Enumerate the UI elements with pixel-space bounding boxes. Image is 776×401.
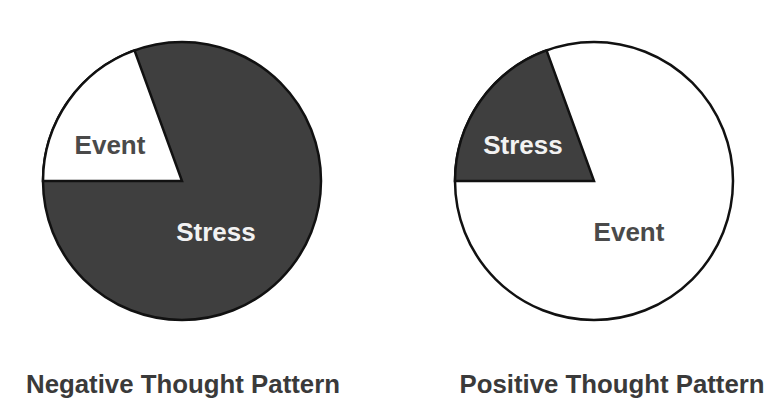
event-slice-label: Event — [594, 217, 665, 247]
stress-slice-label: Stress — [176, 217, 256, 247]
negative-pattern-title: Negative Thought Pattern — [26, 370, 340, 398]
negative-pattern-pie: Event Stress — [43, 42, 321, 320]
positive-pattern-title: Positive Thought Pattern — [460, 370, 765, 398]
event-slice-label: Event — [75, 130, 146, 160]
pie-charts-canvas: Event Stress Stress Event Negative Thoug… — [0, 0, 776, 401]
thought-pattern-figure: Event Stress Stress Event Negative Thoug… — [0, 0, 776, 401]
positive-pattern-pie: Stress Event — [455, 42, 733, 320]
stress-slice-label: Stress — [483, 130, 563, 160]
